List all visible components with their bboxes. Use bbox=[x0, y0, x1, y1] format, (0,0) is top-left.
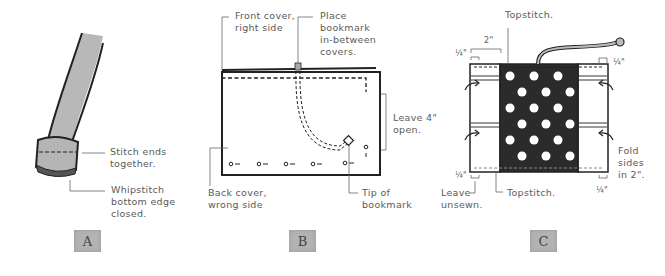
polka-dot bbox=[566, 88, 575, 97]
cord-end bbox=[616, 38, 624, 46]
leader-topstitch-bottom bbox=[496, 172, 503, 192]
callout-tip-of-bookmark: Tip of bookmark bbox=[362, 187, 412, 211]
polka-dot bbox=[566, 120, 575, 129]
polka-dot bbox=[506, 104, 515, 113]
callout-back-cover: Back cover, wrong side bbox=[208, 187, 267, 211]
bracket-quarter-tl bbox=[471, 57, 479, 60]
polka-dot bbox=[542, 120, 551, 129]
bookmark-top bbox=[295, 63, 301, 70]
polka-dot bbox=[542, 152, 551, 161]
polka-dot bbox=[554, 72, 563, 81]
callout-leave-unsewn: Leave unsewn. bbox=[441, 187, 483, 211]
panel-label-c: C bbox=[530, 230, 557, 252]
leader-place-bookmark bbox=[298, 17, 313, 63]
polka-dot bbox=[554, 136, 563, 145]
callout-place-bookmark: Place bookmark in-between covers. bbox=[320, 10, 376, 58]
leader-leave-open bbox=[381, 94, 386, 150]
callout-topstitch-top: Topstitch. bbox=[505, 9, 553, 21]
callout-fold-sides: Fold sides in 2". bbox=[618, 145, 645, 181]
bracket-quarter-tr bbox=[599, 58, 607, 64]
polka-dot bbox=[518, 88, 527, 97]
polka-dot bbox=[506, 72, 515, 81]
label-quarter-inch-top-right: ¼" bbox=[613, 57, 625, 69]
polka-dot bbox=[506, 136, 515, 145]
polka-dot bbox=[530, 104, 539, 113]
strap-body bbox=[48, 33, 103, 142]
leader-whipstitch bbox=[70, 180, 105, 191]
polka-dot bbox=[554, 104, 563, 113]
label-quarter-inch-bottom-right: ¼" bbox=[596, 185, 608, 197]
leader-front-cover bbox=[222, 17, 229, 70]
label-2-inch: 2" bbox=[484, 35, 493, 47]
panel-a-strap-illustration bbox=[36, 33, 105, 191]
callout-stitch-ends: Stitch ends together. bbox=[110, 146, 167, 170]
label-quarter-inch-top-left: ¼" bbox=[455, 48, 467, 60]
polka-dot bbox=[518, 152, 527, 161]
bracket-quarter-bl bbox=[471, 175, 479, 178]
panel-c-flaps-illustration bbox=[465, 28, 624, 193]
bracket-2in bbox=[471, 49, 501, 53]
bracket-quarter-br bbox=[599, 175, 607, 178]
polka-dot bbox=[530, 136, 539, 145]
panel-label-a: A bbox=[74, 230, 101, 252]
callout-whipstitch: Whipstitch bottom edge closed. bbox=[111, 184, 175, 220]
panel-label-b: B bbox=[289, 230, 316, 252]
polka-dot bbox=[566, 152, 575, 161]
polka-dot bbox=[530, 72, 539, 81]
polka-dot bbox=[518, 120, 527, 129]
label-quarter-inch-bottom-left: ¼" bbox=[455, 170, 467, 182]
callout-front-cover: Front cover, right side bbox=[235, 10, 295, 34]
cover-back bbox=[222, 72, 380, 175]
polka-dot bbox=[542, 88, 551, 97]
callout-leave-open: Leave 4" open. bbox=[393, 112, 437, 136]
callout-topstitch-bottom: Topstitch. bbox=[507, 187, 555, 199]
